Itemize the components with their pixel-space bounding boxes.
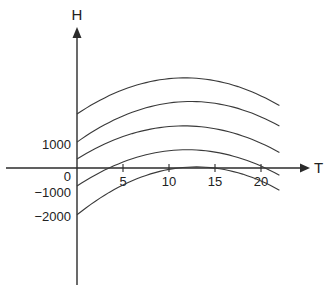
x-axis-arrow-icon (300, 164, 310, 173)
y-axis-arrow-icon (73, 27, 82, 38)
curve-1 (77, 78, 279, 114)
x-axis-label: T (314, 159, 323, 176)
curve-3 (77, 126, 279, 159)
x-tick-label: 15 (208, 174, 222, 189)
x-tick-label: 10 (162, 174, 176, 189)
y-tick-label: 1000 (42, 137, 71, 152)
curve-5 (77, 167, 279, 215)
y-tick-label: −1000 (34, 185, 71, 200)
y-tick-label: −2000 (34, 209, 71, 224)
curve-2 (77, 102, 279, 143)
chart: H T 5101520 1000−1000−2000 0 (0, 0, 324, 293)
curves (77, 78, 279, 215)
origin-label: 0 (64, 169, 71, 184)
y-axis-label: H (72, 6, 83, 23)
